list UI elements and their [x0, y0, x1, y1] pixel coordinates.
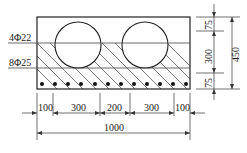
dim-left-span: 300	[71, 102, 86, 113]
dim-right-edge: 100	[175, 102, 190, 113]
dim-left-edge: 100	[38, 102, 53, 113]
void-circle-right	[122, 22, 168, 68]
bottom-rebar-label: 8Φ25	[9, 57, 31, 68]
dim-right-span: 300	[144, 102, 159, 113]
dim-middle-height: 300	[203, 49, 214, 64]
void-circle-left	[55, 22, 101, 68]
bottom-rebar-dots	[40, 82, 188, 86]
dim-total-height: 450	[230, 47, 241, 62]
dim-bottom-cover: 75	[203, 78, 214, 88]
hatch-region	[11, 43, 213, 89]
dim-total-width: 1000	[104, 122, 124, 133]
top-rebar-label: 4Φ22	[9, 32, 31, 43]
dim-top-cover: 75	[203, 20, 214, 30]
cross-section-drawing: 4Φ22 8Φ25 75 300 75 450	[0, 0, 247, 153]
dim-center-span: 200	[107, 102, 122, 113]
